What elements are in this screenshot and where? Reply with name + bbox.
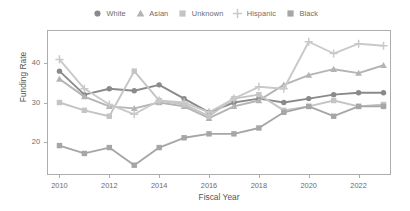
legend-item-black[interactable]: Black (285, 8, 318, 19)
y-axis-title: Funding Rate (18, 32, 28, 122)
legend-item-label: White (106, 9, 125, 18)
data-point (231, 131, 236, 136)
x-tick-label: 2016 (194, 181, 224, 190)
y-tick-mark (44, 103, 47, 104)
x-tick-label: 2014 (144, 181, 174, 190)
data-point (330, 49, 338, 57)
legend-item-white[interactable]: White (92, 8, 126, 19)
legend-item-asian[interactable]: Asian (135, 8, 169, 19)
data-point (156, 145, 161, 150)
series-hispanic (55, 38, 387, 119)
data-point (355, 40, 363, 48)
data-point (381, 104, 386, 109)
data-point (82, 151, 87, 156)
data-point (331, 92, 336, 97)
x-tick-mark (159, 175, 160, 178)
data-point (356, 90, 361, 95)
x-tick-label: 2022 (344, 181, 374, 190)
y-tick-label: 20 (18, 137, 40, 146)
data-point (57, 100, 62, 105)
data-point (57, 68, 62, 73)
chart-legend: WhiteAsianUnknownHispanicBlack (0, 4, 410, 22)
legend-item-label: Black (300, 9, 319, 18)
legend-item-hispanic[interactable]: Hispanic (232, 8, 276, 19)
data-point (356, 104, 361, 109)
data-point (132, 68, 137, 73)
funding-rate-line-chart: WhiteAsianUnknownHispanicBlack 203040201… (0, 0, 410, 211)
data-point (255, 83, 263, 91)
data-point (281, 100, 286, 105)
data-point (130, 110, 138, 118)
legend-item-label: Hispanic (247, 9, 276, 18)
data-point (379, 42, 387, 50)
x-tick-label: 2018 (244, 181, 274, 190)
data-point (256, 125, 261, 130)
legend-item-label: Asian (149, 9, 168, 18)
series-layer (47, 30, 391, 175)
data-point (281, 110, 286, 115)
data-point (305, 38, 313, 46)
data-point (381, 90, 386, 95)
series-line (59, 42, 383, 115)
data-point (256, 92, 261, 97)
data-point (132, 88, 137, 93)
data-point (206, 131, 211, 136)
data-point (156, 82, 161, 87)
x-axis-title: Fiscal Year (47, 192, 391, 202)
x-tick-mark (59, 175, 60, 178)
x-tick-mark (359, 175, 360, 178)
x-tick-mark (259, 175, 260, 178)
series-asian (56, 62, 387, 121)
x-tick-label: 2010 (44, 181, 74, 190)
data-point (380, 62, 387, 68)
triangle-marker-icon (135, 8, 146, 19)
data-point (107, 86, 112, 91)
x-tick-mark (309, 175, 310, 178)
data-point (306, 96, 311, 101)
y-tick-mark (44, 142, 47, 143)
data-point (132, 163, 137, 168)
circle-marker-icon (92, 8, 103, 19)
plus-marker-icon (232, 8, 243, 19)
data-point (331, 98, 336, 103)
x-tick-label: 2020 (294, 181, 324, 190)
legend-item-unknown[interactable]: Unknown (177, 8, 223, 19)
data-point (306, 104, 311, 109)
series-line (59, 65, 383, 118)
legend-item-label: Unknown (192, 9, 224, 18)
x-tick-mark (209, 175, 210, 178)
data-point (82, 108, 87, 113)
x-tick-label: 2012 (94, 181, 124, 190)
data-point (181, 135, 186, 140)
data-point (331, 114, 336, 119)
data-point (56, 76, 63, 82)
data-point (107, 114, 112, 119)
x-tick-mark (109, 175, 110, 178)
square-marker-icon (285, 8, 296, 19)
data-point (107, 145, 112, 150)
data-point (57, 143, 62, 148)
y-tick-mark (44, 63, 47, 64)
square-marker-icon (177, 8, 188, 19)
